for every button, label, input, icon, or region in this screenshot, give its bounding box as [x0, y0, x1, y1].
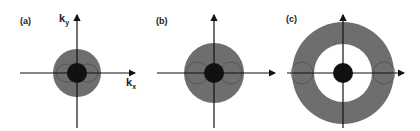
kx-label: kx: [126, 76, 136, 90]
panel-label-a: (a): [20, 16, 31, 26]
k-space-diagram: (a) ky kx (b) (c): [0, 0, 420, 131]
ky-label: ky: [59, 12, 69, 27]
panel-c: (c): [286, 14, 404, 128]
panel-b: (b): [156, 15, 275, 128]
panel-label-b: (b): [156, 16, 168, 26]
panel-a: (a) ky kx: [20, 12, 136, 128]
panel-label-c: (c): [286, 14, 297, 24]
